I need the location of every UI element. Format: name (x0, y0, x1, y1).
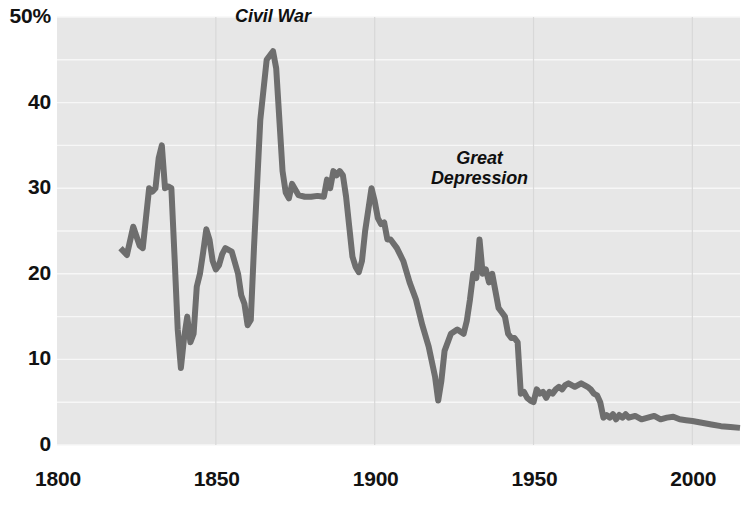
y-axis-label-10: 10 (28, 346, 51, 370)
annotation-great-depression: Great Depression (385, 148, 575, 188)
y-axis-label-30: 30 (28, 175, 51, 199)
y-axis-label-20: 20 (28, 261, 51, 285)
x-axis-label-2000: 2000 (670, 467, 716, 491)
chart-container: 50%403020100 18001850190019502000 Civil … (0, 0, 746, 509)
x-axis-label-1900: 1900 (353, 467, 399, 491)
x-axis-label-1950: 1950 (512, 467, 558, 491)
annotation-civil-war: Civil War (178, 6, 368, 26)
y-axis-label-40: 40 (28, 90, 51, 114)
y-axis-label-0: 0 (40, 432, 51, 456)
y-axis-label-50: 50% (10, 4, 51, 28)
x-axis-label-1800: 1800 (35, 467, 81, 491)
x-axis-label-1850: 1850 (194, 467, 240, 491)
line-chart (0, 0, 746, 509)
